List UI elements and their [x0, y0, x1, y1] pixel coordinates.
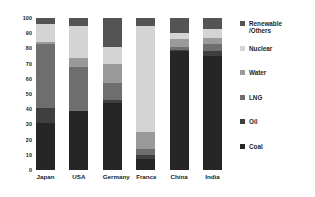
y-axis-tick-label: 50	[26, 91, 32, 97]
bar-column[interactable]	[103, 18, 122, 170]
bar-stack	[36, 18, 55, 170]
bar-stack	[203, 18, 222, 170]
bar-segment[interactable]	[103, 83, 122, 100]
bar-stack	[103, 18, 122, 170]
bar-segment[interactable]	[170, 39, 189, 47]
legend-item-label: LNG	[249, 94, 262, 101]
legend-item-label: Coal	[249, 143, 263, 150]
y-axis: 0102030405060708090100	[0, 18, 34, 170]
x-axis-tick-label: Japan	[36, 172, 55, 186]
legend-item[interactable]: LNG	[240, 94, 262, 101]
legend-item[interactable]: Coal	[240, 143, 263, 150]
y-axis-tick-label: 40	[26, 106, 32, 112]
bar-segment[interactable]	[136, 26, 155, 132]
y-axis-tick-label: 80	[26, 45, 32, 51]
y-axis-tick-label: 20	[26, 137, 32, 143]
bar-stack	[136, 18, 155, 170]
bar-segment[interactable]	[136, 18, 155, 26]
legend-item-label: Nuclear	[249, 45, 272, 52]
bar-segment[interactable]	[103, 103, 122, 170]
bar-segment[interactable]	[69, 58, 88, 67]
legend-swatch-icon	[240, 21, 245, 26]
bar-segment[interactable]	[103, 47, 122, 64]
bar-column[interactable]	[69, 18, 88, 170]
y-axis-tick-label: 90	[26, 30, 32, 36]
x-axis-tick-label: USA	[69, 172, 88, 186]
legend-swatch-icon	[240, 95, 245, 100]
legend-item[interactable]: Water	[240, 69, 266, 76]
bar-segment[interactable]	[36, 123, 55, 170]
x-axis-tick-label: Germany	[103, 172, 122, 186]
y-axis-tick-label: 0	[29, 167, 32, 173]
x-axis-tick-label: China	[170, 172, 189, 186]
bar-column[interactable]	[203, 18, 222, 170]
legend-item[interactable]: Renewable /Others	[240, 20, 282, 35]
plot-area	[36, 18, 222, 170]
legend-item-label: Oil	[249, 118, 257, 125]
legend-item[interactable]: Oil	[240, 118, 257, 125]
bar-segment[interactable]	[103, 64, 122, 84]
bar-stack	[69, 18, 88, 170]
y-axis-tick-label: 70	[26, 61, 32, 67]
y-axis-tick-label: 60	[26, 76, 32, 82]
bar-segment[interactable]	[203, 18, 222, 29]
chart-legend: Renewable /OthersNuclearWaterLNGOilCoal	[240, 20, 314, 168]
x-axis-tick-label: India	[203, 172, 222, 186]
bar-segment[interactable]	[69, 26, 88, 58]
legend-swatch-icon	[240, 119, 245, 124]
bar-segment[interactable]	[136, 132, 155, 149]
legend-item-label: Water	[249, 69, 266, 76]
bar-column[interactable]	[36, 18, 55, 170]
stacked-bar-chart: 0102030405060708090100 JapanUSAGermanyFr…	[0, 0, 315, 197]
bar-segment[interactable]	[136, 159, 155, 170]
x-axis: JapanUSAGermanyFranceChinaIndia	[36, 172, 222, 186]
bar-segment[interactable]	[170, 51, 189, 170]
y-axis-tick-label: 100	[23, 15, 32, 21]
x-axis-tick-label: France	[136, 172, 155, 186]
legend-swatch-icon	[240, 46, 245, 51]
bar-segment[interactable]	[203, 56, 222, 170]
bar-segment[interactable]	[69, 18, 88, 26]
bar-segment[interactable]	[103, 18, 122, 47]
y-axis-tick-label: 10	[26, 152, 32, 158]
bar-segment[interactable]	[203, 44, 222, 52]
bar-segment[interactable]	[203, 29, 222, 38]
bar-segment[interactable]	[36, 24, 55, 42]
bar-group	[36, 18, 222, 170]
legend-swatch-icon	[240, 70, 245, 75]
bar-segment[interactable]	[170, 18, 189, 33]
legend-item[interactable]: Nuclear	[240, 45, 272, 52]
legend-item-label: Renewable /Others	[249, 20, 282, 35]
bar-column[interactable]	[170, 18, 189, 170]
bar-segment[interactable]	[69, 67, 88, 111]
bar-segment[interactable]	[36, 108, 55, 123]
bar-segment[interactable]	[36, 44, 55, 108]
legend-swatch-icon	[240, 144, 245, 149]
bar-stack	[170, 18, 189, 170]
y-axis-tick-label: 30	[26, 121, 32, 127]
bar-segment[interactable]	[69, 111, 88, 170]
bar-column[interactable]	[136, 18, 155, 170]
